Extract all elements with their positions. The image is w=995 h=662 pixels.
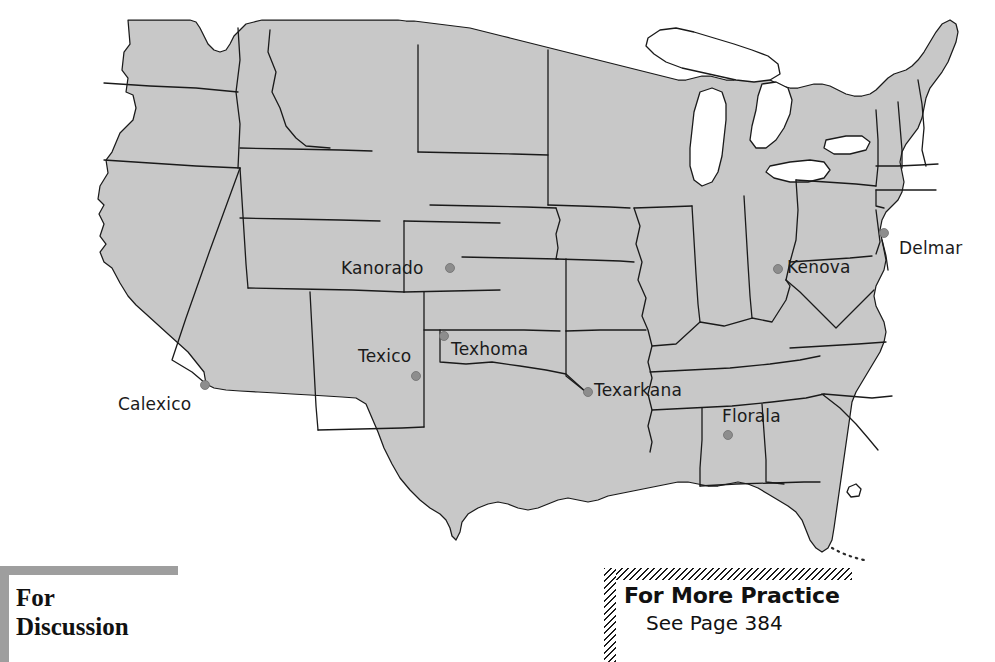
for-more-practice-subtitle: See Page 384 [646,612,783,634]
lake-okeechobee-shape [847,484,861,497]
page-root: Calexico Texico Kanorado Texhoma Texarka… [0,0,995,662]
for-more-practice-title: For More Practice [624,584,840,608]
florida-keys-dots [832,548,864,560]
us-map-figure: Calexico Texico Kanorado Texhoma Texarka… [0,0,995,570]
us-landmass-shape [98,20,958,552]
for-more-practice-callout: For More Practice See Page 384 [604,568,852,662]
city-dot-texarkana[interactable] [584,388,593,397]
for-discussion-callout: For Discussion [0,566,178,662]
city-dot-calexico[interactable] [201,381,210,390]
city-label-kenova: Kenova [787,259,851,276]
city-dot-florala[interactable] [724,431,733,440]
for-more-practice-left-rule [604,568,616,662]
city-dot-kanorado[interactable] [446,264,455,273]
city-label-delmar: Delmar [899,240,962,257]
for-discussion-top-rule [0,566,178,575]
us-map-svg [0,0,995,570]
city-dot-kenova[interactable] [774,265,783,274]
city-label-texhoma: Texhoma [451,341,528,358]
for-more-practice-top-rule [604,568,852,580]
map-landmass [98,20,958,552]
for-discussion-line-2: Discussion [16,612,129,641]
for-discussion-left-rule [0,566,9,662]
lake-superior-shape [646,28,780,82]
city-label-texarkana: Texarkana [594,382,682,399]
city-label-kanorado: Kanorado [341,260,424,277]
for-discussion-line-1: For [16,583,129,612]
city-dot-delmar[interactable] [880,229,889,238]
city-label-calexico: Calexico [118,396,191,413]
for-discussion-text: For Discussion [16,583,129,641]
city-label-florala: Florala [722,408,781,425]
city-dot-texico[interactable] [412,372,421,381]
city-dot-texhoma[interactable] [440,332,449,341]
city-label-texico: Texico [358,348,411,365]
lake-ontario-shape [824,136,870,154]
